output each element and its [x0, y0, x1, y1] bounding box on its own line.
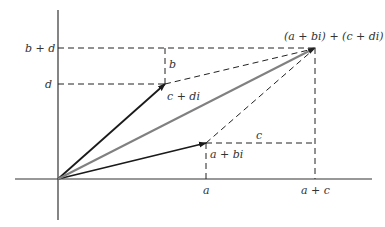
- label-b: b: [169, 58, 176, 71]
- label-z2: c + di: [167, 90, 200, 103]
- label-d: d: [45, 78, 52, 91]
- label-c: c: [256, 129, 262, 142]
- vector-sum: [58, 48, 315, 179]
- label-b-plus-d: b + d: [25, 42, 55, 55]
- label-a: a: [203, 184, 210, 197]
- label-sum: (a + bi) + (c + di): [284, 30, 384, 43]
- vector-z1: [58, 143, 206, 179]
- guide-z2-to-sum: [165, 49, 313, 84]
- vector-z2: [58, 84, 165, 179]
- label-a-plus-c: a + c: [301, 184, 330, 197]
- label-z1: a + bi: [210, 148, 243, 161]
- complex-addition-diagram: (a + bi) + (c + di) c + di a + bi b + d …: [0, 0, 385, 227]
